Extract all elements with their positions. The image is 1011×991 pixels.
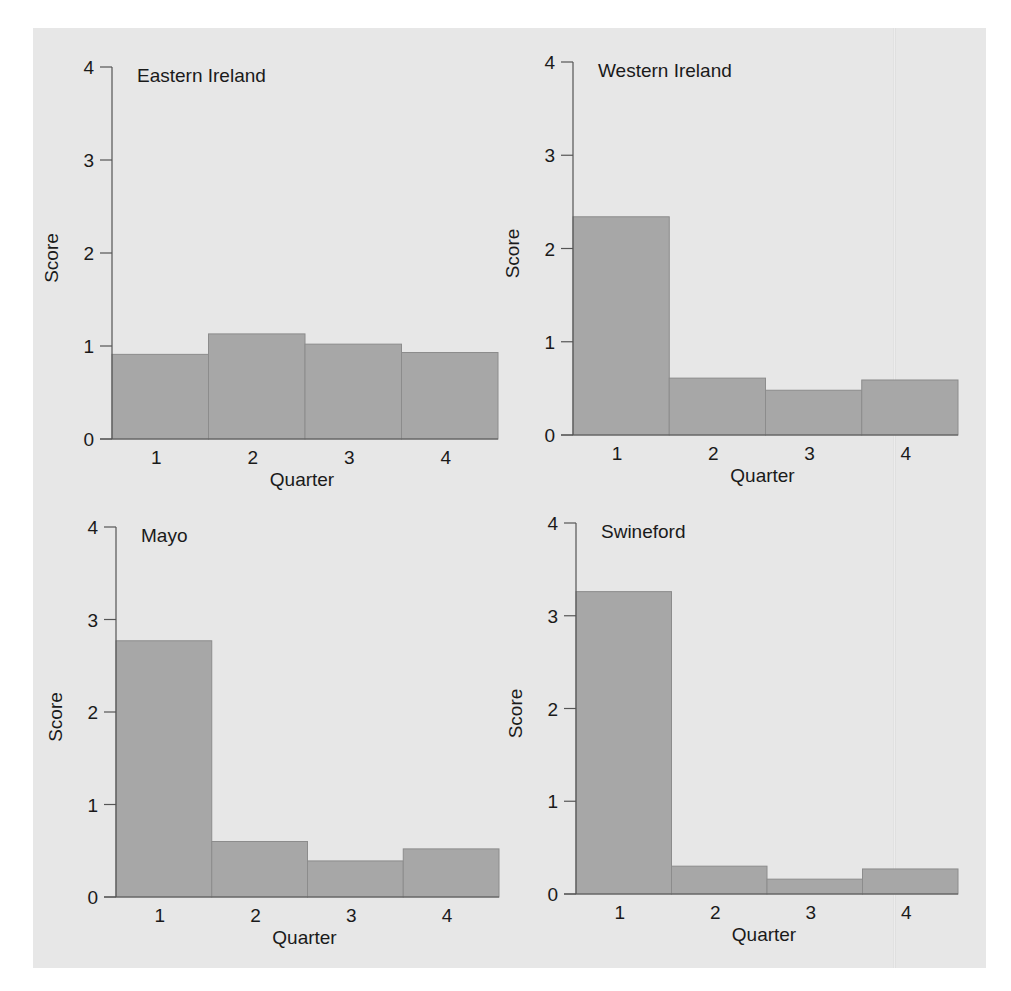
bar-quarter-2	[672, 866, 768, 894]
y-axis-title: Score	[505, 689, 526, 739]
x-tick-label: 1	[612, 443, 623, 464]
x-tick-label: 1	[151, 447, 162, 468]
panel-title: Eastern Ireland	[137, 65, 266, 86]
y-tick-label: 4	[87, 517, 98, 538]
x-tick-label: 3	[804, 443, 815, 464]
y-tick-label: 3	[87, 610, 98, 631]
x-tick-label: 3	[344, 447, 355, 468]
bar-quarter-1	[116, 641, 212, 897]
panel-title: Western Ireland	[598, 60, 732, 81]
y-axis-title: Score	[41, 233, 62, 283]
small-multiples-bar-charts: 012341234QuarterScoreEastern Ireland0123…	[0, 0, 1011, 991]
bar-quarter-4	[403, 849, 499, 897]
y-tick-label: 2	[83, 243, 94, 264]
x-tick-label: 3	[805, 902, 816, 923]
bar-quarter-2	[669, 378, 765, 435]
bar-quarter-3	[767, 879, 863, 894]
x-tick-label: 4	[440, 447, 451, 468]
y-tick-label: 4	[547, 513, 558, 534]
x-axis-title: Quarter	[732, 924, 797, 945]
y-axis-title: Score	[45, 692, 66, 742]
y-tick-label: 3	[544, 145, 555, 166]
chart-panel-eastern-ireland: 012341234QuarterScoreEastern Ireland	[41, 57, 498, 490]
y-tick-label: 1	[544, 332, 555, 353]
chart-panel-western-ireland: 012341234QuarterScoreWestern Ireland	[502, 52, 958, 486]
bar-quarter-3	[305, 344, 402, 439]
y-tick-label: 3	[83, 150, 94, 171]
bar-quarter-4	[862, 380, 958, 435]
bar-quarter-1	[576, 592, 672, 894]
panel-title: Swineford	[601, 521, 686, 542]
bar-quarter-2	[209, 334, 306, 439]
y-tick-label: 0	[83, 429, 94, 450]
chart-panel-mayo: 012341234QuarterScoreMayo	[45, 517, 499, 948]
y-tick-label: 4	[544, 52, 555, 73]
x-axis-title: Quarter	[270, 469, 335, 490]
bar-quarter-3	[308, 861, 404, 897]
y-tick-label: 2	[544, 239, 555, 260]
x-tick-label: 2	[247, 447, 258, 468]
y-tick-label: 0	[547, 884, 558, 905]
x-tick-label: 2	[710, 902, 721, 923]
x-axis-title: Quarter	[272, 927, 337, 948]
bar-quarter-4	[863, 869, 959, 894]
panel-title: Mayo	[141, 525, 187, 546]
x-tick-label: 1	[614, 902, 625, 923]
y-tick-label: 2	[87, 702, 98, 723]
x-tick-label: 3	[346, 905, 357, 926]
y-tick-label: 1	[87, 795, 98, 816]
y-tick-label: 0	[544, 425, 555, 446]
x-tick-label: 2	[708, 443, 719, 464]
x-tick-label: 2	[250, 905, 261, 926]
x-tick-label: 4	[442, 905, 453, 926]
x-tick-label: 1	[155, 905, 166, 926]
y-tick-label: 3	[547, 606, 558, 627]
y-tick-label: 1	[547, 791, 558, 812]
bar-quarter-1	[112, 354, 209, 439]
y-tick-label: 4	[83, 57, 94, 78]
bar-quarter-1	[573, 217, 669, 435]
x-tick-label: 4	[901, 902, 912, 923]
x-axis-title: Quarter	[730, 465, 795, 486]
bar-quarter-3	[766, 390, 862, 435]
y-tick-label: 1	[83, 336, 94, 357]
bar-quarter-4	[402, 353, 499, 439]
y-tick-label: 2	[547, 699, 558, 720]
y-axis-title: Score	[502, 229, 523, 279]
y-tick-label: 0	[87, 887, 98, 908]
chart-panel-swineford: 012341234QuarterScoreSwineford	[505, 513, 958, 945]
x-tick-label: 4	[901, 443, 912, 464]
bar-quarter-2	[212, 842, 308, 898]
